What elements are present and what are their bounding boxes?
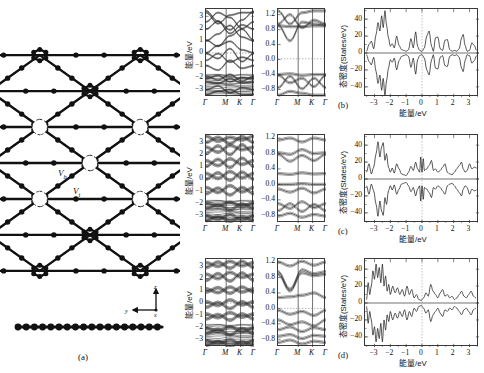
band-wide-ytick-c-1: 2: [191, 149, 203, 158]
dos-xtick-d-2: −1: [399, 348, 411, 357]
band-zoom-ytick-d-1: 0.8: [260, 272, 275, 281]
dos-xtick-b-3: 0: [415, 98, 427, 107]
dos-plot-c: [364, 134, 478, 222]
band-structure-wide-d: [205, 258, 253, 346]
band-wide-ytick-c-0: 3: [191, 137, 203, 146]
dos-xtick-d-4: 1: [431, 348, 443, 357]
band-zoom-xtick-c-2: K: [307, 224, 317, 233]
dos-xtick-c-0: −3: [368, 224, 380, 233]
band-zoom-xtick-d-3: Γ: [320, 348, 330, 357]
dos-plot-b: [364, 8, 478, 96]
band-zoom-ytick-b-1: 0.8: [260, 24, 275, 33]
band-zoom-ytick-d-5: −0.8: [260, 334, 275, 343]
band-wide-xtick-c-0: Γ: [200, 224, 210, 233]
band-zoom-xtick-d-2: K: [307, 348, 317, 357]
band-zoom-ytick-d-0: 1.2: [260, 256, 275, 265]
band-structure-wide-b: [205, 8, 253, 96]
dos-xtick-c-2: −1: [399, 224, 411, 233]
band-wide-xtick-c-2: K: [235, 224, 245, 233]
dos-ytick-c-0: 40: [345, 140, 362, 149]
dos-ytick-d-0: 40: [345, 264, 362, 273]
band-wide-xtick-b-1: M: [220, 98, 230, 107]
dos-xtick-c-1: −2: [383, 224, 395, 233]
dos-xlabel-b: 能量/eV: [399, 107, 427, 118]
panel-label-d: (d): [338, 350, 348, 360]
dos-xtick-c-5: 2: [447, 224, 459, 233]
dos-ylabel-b: 态密度(States/eV): [337, 25, 348, 88]
band-wide-ytick-d-6: −3: [191, 334, 203, 343]
band-ylabel-b: 能量/eV: [183, 41, 194, 69]
band-wide-xtick-d-0: Γ: [200, 348, 210, 357]
band-zoom-ytick-b-3: 0.0: [260, 54, 275, 63]
dos-ylabel-d: 态密度(States/eV): [337, 275, 348, 338]
band-zoom-ytick-d-4: −0.4: [260, 318, 275, 327]
dos-xlabel-c: 能量/eV: [399, 233, 427, 244]
panel-label-b: (b): [338, 100, 348, 110]
band-zoom-xtick-b-2: K: [307, 98, 317, 107]
band-structure-wide-c: [205, 134, 253, 222]
band-wide-xtick-b-0: Γ: [200, 98, 210, 107]
dos-xtick-c-6: 3: [463, 224, 475, 233]
band-wide-xtick-d-3: Γ: [248, 348, 258, 357]
dos-xtick-d-1: −2: [383, 348, 395, 357]
band-structure-zoom-b: [277, 8, 325, 96]
band-zoom-ytick-c-5: −0.8: [260, 210, 275, 219]
band-wide-xtick-b-3: Γ: [248, 98, 258, 107]
band-zoom-ytick-b-5: −0.8: [260, 84, 275, 93]
band-structure-zoom-d: [277, 258, 325, 346]
figure-root: Vb Vt z y x (a) 3210−1−2−3能量/eVΓMKΓ1.20.…: [0, 0, 484, 373]
band-zoom-xtick-b-3: Γ: [320, 98, 330, 107]
dos-xtick-b-0: −3: [368, 98, 380, 107]
dos-ytick-b-0: 40: [345, 14, 362, 23]
dos-xtick-d-3: 0: [415, 348, 427, 357]
dos-ylabel-c: 态密度(States/eV): [337, 151, 348, 214]
band-zoom-ytick-b-4: −0.4: [260, 69, 275, 78]
band-zoom-ytick-d-2: 0.4: [260, 287, 275, 296]
dos-xtick-b-5: 2: [447, 98, 459, 107]
band-ylabel-c: 能量/eV: [183, 167, 194, 195]
band-wide-ytick-d-0: 3: [191, 261, 203, 270]
band-zoom-xtick-d-1: M: [292, 348, 302, 357]
band-wide-xtick-c-3: Γ: [248, 224, 258, 233]
dos-plot-d: [364, 258, 478, 346]
panel-label-c: (c): [338, 226, 348, 236]
dos-xtick-d-6: 3: [463, 348, 475, 357]
band-zoom-ytick-c-4: −0.4: [260, 194, 275, 203]
band-zoom-ytick-c-2: 0.4: [260, 163, 275, 172]
band-wide-ytick-b-0: 3: [191, 11, 203, 20]
band-wide-ytick-b-6: −3: [191, 84, 203, 93]
band-wide-ytick-d-5: −2: [191, 322, 203, 331]
band-wide-ytick-c-5: −2: [191, 198, 203, 207]
band-zoom-ytick-c-1: 0.8: [260, 148, 275, 157]
band-wide-ytick-b-1: 2: [191, 23, 203, 32]
dos-xtick-c-4: 1: [431, 224, 443, 233]
band-wide-xtick-d-2: K: [235, 348, 245, 357]
band-wide-xtick-b-2: K: [235, 98, 245, 107]
band-zoom-xtick-d-0: Γ: [272, 348, 282, 357]
band-zoom-xtick-c-1: M: [292, 224, 302, 233]
dos-xtick-d-0: −3: [368, 348, 380, 357]
band-zoom-xtick-c-0: Γ: [272, 224, 282, 233]
band-zoom-xtick-b-0: Γ: [272, 98, 282, 107]
band-wide-ytick-b-5: −2: [191, 72, 203, 81]
dos-xtick-d-5: 2: [447, 348, 459, 357]
band-ylabel-d: 能量/eV: [183, 291, 194, 319]
dos-xtick-b-2: −1: [399, 98, 411, 107]
band-zoom-xtick-b-1: M: [292, 98, 302, 107]
band-zoom-ytick-c-0: 1.2: [260, 132, 275, 141]
dos-xlabel-d: 能量/eV: [399, 357, 427, 368]
band-zoom-ytick-b-0: 1.2: [260, 9, 275, 18]
band-zoom-ytick-c-3: 0.0: [260, 179, 275, 188]
dos-xtick-b-4: 1: [431, 98, 443, 107]
band-zoom-ytick-d-3: 0.0: [260, 303, 275, 312]
band-zoom-ytick-b-2: 0.4: [260, 39, 275, 48]
band-zoom-xtick-c-3: Γ: [320, 224, 330, 233]
dos-xtick-c-3: 0: [415, 224, 427, 233]
band-wide-ytick-c-6: −3: [191, 210, 203, 219]
dos-xtick-b-1: −2: [383, 98, 395, 107]
plots-container: 3210−1−2−3能量/eVΓMKΓ1.20.80.40.0−0.4−0.8Γ…: [0, 0, 484, 373]
band-wide-xtick-c-1: M: [220, 224, 230, 233]
band-wide-xtick-d-1: M: [220, 348, 230, 357]
band-structure-zoom-c: [277, 134, 325, 222]
dos-xtick-b-6: 3: [463, 98, 475, 107]
